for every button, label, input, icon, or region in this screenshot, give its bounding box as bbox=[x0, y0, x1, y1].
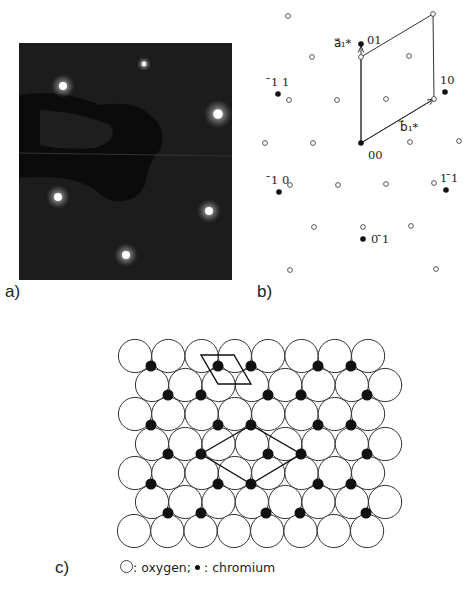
oxygen-atom bbox=[369, 427, 402, 460]
chromium-atom bbox=[213, 420, 224, 431]
legend-sep: : bbox=[133, 560, 141, 575]
integer-order-spot bbox=[442, 89, 448, 95]
superstructure-spot bbox=[288, 268, 293, 273]
oxygen-atom bbox=[302, 427, 335, 460]
chromium-atom bbox=[213, 361, 224, 372]
chromium-atom bbox=[362, 449, 373, 460]
spot-index-label: 1 ̄1 bbox=[440, 171, 458, 185]
chromium-atom bbox=[346, 420, 357, 431]
chromium-atom bbox=[163, 390, 174, 401]
chromium-atom bbox=[146, 479, 157, 490]
chromium-atom bbox=[313, 361, 324, 372]
superstructure-spot bbox=[335, 98, 340, 103]
spot-index-label: ̄1 0 bbox=[266, 173, 289, 187]
superstructure-spot bbox=[432, 97, 437, 102]
oxygen-atom bbox=[117, 514, 150, 547]
reciprocal-lattice-diagram: a⃗₁* b⃗₁* 01̄1 11000̄1 01 ̄10 ̄1 bbox=[263, 12, 462, 273]
superstructure-spot bbox=[286, 14, 291, 19]
legend-oxygen-text: oxygen; bbox=[141, 560, 191, 575]
leed-pattern-photo bbox=[19, 43, 232, 280]
legend: : oxygen; : chromium bbox=[120, 560, 275, 575]
panel-b-label: b) bbox=[257, 282, 272, 302]
oxygen-atom bbox=[284, 514, 317, 547]
legend-sep: : bbox=[204, 560, 212, 575]
chromium-atom bbox=[146, 361, 157, 372]
spot-index-label: 10 bbox=[440, 73, 455, 87]
chromium-atom bbox=[196, 390, 207, 401]
spot-index-label: 0 ̄1 bbox=[371, 232, 389, 246]
superstructure-spot bbox=[263, 141, 268, 146]
chromium-symbol-icon bbox=[195, 565, 200, 570]
superstructure-spot bbox=[310, 55, 315, 60]
integer-order-spots bbox=[275, 41, 449, 242]
integer-order-spot bbox=[275, 91, 281, 97]
oxygen-atom bbox=[352, 397, 385, 430]
oxygen-atom bbox=[369, 485, 402, 518]
superstructure-spot bbox=[431, 12, 436, 17]
diffraction-spot bbox=[122, 251, 130, 259]
panel-c-label: c) bbox=[55, 558, 69, 578]
oxygen-atom bbox=[317, 514, 350, 547]
chromium-atom bbox=[346, 479, 357, 490]
oxygen-atom bbox=[252, 339, 285, 372]
diffraction-spot bbox=[213, 109, 223, 119]
oxygen-atom bbox=[184, 514, 217, 547]
oxygen-atom bbox=[202, 368, 235, 401]
superstructure-spot bbox=[407, 54, 412, 59]
oxygen-atom bbox=[151, 514, 184, 547]
spot-index-label: ̄1 1 bbox=[266, 75, 289, 89]
legend-chromium-text: chromium bbox=[212, 560, 275, 575]
diffraction-spot bbox=[54, 193, 62, 201]
chromium-atom bbox=[362, 390, 373, 401]
diffraction-spot bbox=[142, 62, 147, 67]
chromium-atom bbox=[263, 390, 274, 401]
chromium-atom bbox=[295, 508, 306, 519]
oxygen-atom bbox=[252, 397, 285, 430]
panel-a-label: a) bbox=[5, 282, 20, 302]
chromium-atom bbox=[163, 449, 174, 460]
superstructure-spot bbox=[336, 183, 341, 188]
superstructure-spot bbox=[432, 181, 437, 186]
integer-order-spot bbox=[276, 189, 282, 195]
superstructure-spot bbox=[434, 267, 439, 272]
integer-order-spot bbox=[443, 187, 449, 193]
oxygen-atoms bbox=[117, 339, 401, 547]
chromium-atom bbox=[313, 479, 324, 490]
oxygen-symbol-icon bbox=[120, 560, 133, 573]
chromium-atom bbox=[146, 420, 157, 431]
b1-star-vector-arrow bbox=[361, 99, 434, 143]
figure-canvas: a⃗₁* b⃗₁* 01̄1 11000̄1 01 ̄10 ̄1 bbox=[0, 0, 473, 597]
chromium-atom bbox=[361, 508, 372, 519]
oxygen-atom bbox=[152, 456, 185, 489]
spot-index-label: 01 bbox=[367, 33, 382, 47]
cropped-caption-fragment bbox=[14, 588, 294, 592]
superstructure-spot bbox=[408, 140, 413, 145]
superstructure-spot bbox=[312, 225, 317, 230]
oxygen-atom bbox=[351, 514, 384, 547]
chromium-atom bbox=[246, 361, 257, 372]
chromium-atom bbox=[196, 508, 207, 519]
oxygen-atom bbox=[369, 368, 402, 401]
integer-order-spot bbox=[358, 140, 364, 146]
superstructure-spot bbox=[359, 55, 364, 60]
chromium-atom bbox=[163, 508, 174, 519]
spot-index-label: 00 bbox=[368, 148, 383, 162]
superstructure-spot bbox=[409, 224, 414, 229]
integer-order-spot bbox=[360, 236, 366, 242]
superstructure-spot bbox=[311, 141, 316, 146]
superstructure-spot bbox=[457, 139, 462, 144]
chromium-atom bbox=[296, 390, 307, 401]
oxygen-atom bbox=[302, 368, 335, 401]
chromium-atom bbox=[261, 508, 272, 519]
oxygen-atom bbox=[352, 339, 385, 372]
superstructure-spot bbox=[361, 225, 366, 230]
integer-order-spot bbox=[358, 41, 364, 47]
oxygen-atom bbox=[217, 514, 250, 547]
oxygen-atom bbox=[152, 397, 185, 430]
oxygen-atom bbox=[251, 514, 284, 547]
oxygen-atom bbox=[302, 485, 335, 518]
oxygen-atom bbox=[152, 339, 185, 372]
diffraction-spot bbox=[59, 82, 67, 90]
oxygen-atom bbox=[202, 485, 235, 518]
oxygen-atom bbox=[352, 456, 385, 489]
